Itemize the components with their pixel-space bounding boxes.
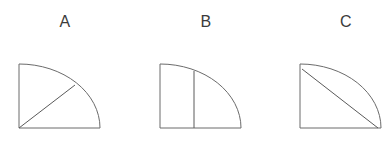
- figure-label-b: B: [141, 12, 271, 32]
- diagonal-radius-line-a: [19, 85, 75, 128]
- figure-group-c: C: [281, 0, 391, 147]
- figure-label-a: A: [0, 12, 130, 32]
- quarter-arc-b: [160, 64, 241, 128]
- figure-label-c: C: [281, 12, 391, 32]
- right-angle-edges-b: [160, 64, 241, 128]
- quarter-arc-c: [300, 64, 381, 128]
- quarter-circle-diagram-b: [158, 62, 242, 130]
- figure-group-b: B: [141, 0, 271, 147]
- right-angle-edges-c: [300, 64, 381, 128]
- quarter-circle-diagram-c: [298, 62, 382, 130]
- figure-group-a: A: [0, 0, 130, 147]
- figure-board: A B C: [0, 0, 391, 147]
- diagonal-chord-line-c: [302, 69, 378, 128]
- quarter-circle-diagram-a: [17, 62, 101, 130]
